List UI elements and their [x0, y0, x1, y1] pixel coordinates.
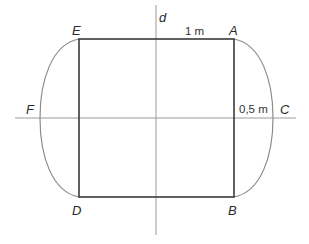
point-label-d: D	[72, 204, 81, 217]
point-label-c: C	[280, 103, 289, 116]
measurement-1m: 1 m	[185, 26, 204, 38]
geometry-diagram	[0, 0, 309, 244]
point-label-a: A	[229, 24, 238, 37]
axis-label-d: d	[159, 11, 166, 24]
point-label-f: F	[26, 103, 34, 116]
measurement-0-5m: 0,5 m	[239, 104, 268, 116]
point-label-e: E	[72, 24, 81, 37]
point-label-b: B	[228, 204, 237, 217]
